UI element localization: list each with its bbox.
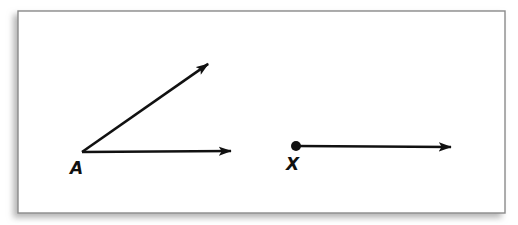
ray-a-horizontal bbox=[82, 151, 231, 152]
geometry-figure-svg: A X bbox=[0, 0, 518, 225]
vertex-label-x: X bbox=[285, 154, 300, 174]
ray-x-horizontal bbox=[296, 146, 451, 147]
figure-frame-rect bbox=[18, 11, 505, 213]
figure-frame bbox=[18, 11, 505, 213]
vertex-label-a: A bbox=[68, 158, 83, 178]
figure-root: A X bbox=[0, 0, 518, 225]
endpoint-dot-x bbox=[291, 141, 301, 151]
